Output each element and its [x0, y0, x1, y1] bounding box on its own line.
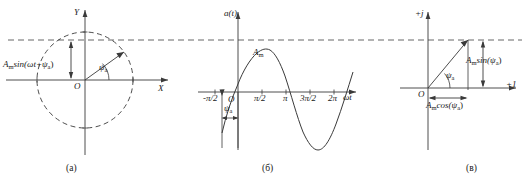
panel-c-graphics [400, 12, 516, 150]
panel-a-caption: (а) [66, 163, 77, 173]
panel-c-real-amplitude-sub: m [432, 104, 437, 111]
panel-a-angle-symbol: ψ [99, 62, 105, 72]
panel-c-imag-phase-sub: a [496, 59, 499, 66]
panel-b-phase-symbol: ψ [224, 103, 230, 113]
panel-c-real-amplitude: A [426, 100, 432, 110]
panel-b-phase-sub: a [230, 107, 233, 114]
panel-b-tick-label-three-half-pi: 3π/2 [300, 94, 316, 103]
panel-c-caption: (в) [466, 163, 477, 173]
panel-b-x-axis-label: ωt [343, 93, 352, 102]
panel-a-projection-closeparen: ) [50, 59, 53, 69]
panel-c-angle-sub: a [452, 74, 455, 81]
panel-a-graphics [6, 10, 168, 155]
panel-c-imag-amplitude: A [466, 55, 472, 65]
panel-a-x-axis-arrow [161, 78, 168, 83]
panel-b-amplitude-symbol: A [253, 47, 259, 57]
panel-c-imag-axis-label: +j [415, 9, 424, 18]
panel-a-projection-label: Amsin(ωt+ψa) [3, 60, 53, 69]
panel-a-projection-amplitude: A [3, 59, 9, 69]
panel-a-projection-expression: sin(ωt+ψ [14, 59, 48, 69]
panel-a-projection-arrow-down [69, 72, 73, 79]
panel-a-origin-label: O [74, 82, 81, 91]
panel-c-phasor-vector [428, 40, 468, 88]
panel-c-imag-arrow-up [481, 41, 485, 48]
panel-c-real-component-label: Amcos(ψa) [426, 101, 463, 110]
panel-a-vector-arrowhead [116, 52, 124, 58]
panel-c-real-axis-label: +1 [506, 80, 517, 89]
panel-a-angle-label: ψa [99, 63, 107, 72]
panel-c-angle-label: ψa [446, 71, 454, 80]
panel-c-real-expression: cos(ψ [437, 100, 458, 110]
panel-b-tick-label-neg-half-pi: -π/2 [203, 94, 218, 103]
panel-c-origin-label: O [418, 90, 425, 99]
panel-c-imag-expression: sin(ψ [477, 55, 496, 65]
panel-b-amplitude-label: Am [253, 48, 264, 57]
panel-a-angle-sub: a [105, 66, 108, 73]
panel-b-graphics [198, 12, 356, 150]
panel-a-x-axis-label: X [158, 84, 164, 93]
panel-b-phase-label: ψa [224, 104, 232, 113]
panel-c-real-closeparen: ) [460, 100, 463, 110]
panel-c-imag-component-label: Amsin(ψa) [466, 56, 502, 65]
panel-a-y-axis-arrow [83, 10, 88, 17]
panel-c-phasor-arrowhead [461, 40, 468, 47]
panel-b-amplitude-sub: m [259, 51, 264, 58]
panel-b-caption: (б) [262, 163, 273, 173]
panel-c-angle-symbol: ψ [446, 70, 452, 80]
panel-b-y-axis-label: a(t) [224, 9, 237, 18]
panel-a-projection-arrow-up [69, 41, 73, 48]
panel-c-real-phase-sub: a [457, 104, 460, 111]
panel-b-tick-label-pi: π [283, 94, 288, 103]
panel-b-tick-label-half-pi: π/2 [254, 94, 266, 103]
panel-c-imag-arrow-down [481, 81, 485, 88]
panel-b-tick-label-two-pi: 2π [328, 94, 337, 103]
panel-a-projection-amplitude-sub: m [9, 63, 14, 70]
figure-sinusoid-phasor: Y X O Amsin(ωt+ψa) ψa a(t) ωt O -π/2 π/2… [0, 0, 526, 184]
panel-c-imag-amplitude-sub: m [472, 59, 477, 66]
panel-a-y-axis-label: Y [74, 8, 79, 17]
panel-c-imag-axis-arrow [426, 12, 431, 19]
figure-vector-graphics [0, 0, 526, 184]
